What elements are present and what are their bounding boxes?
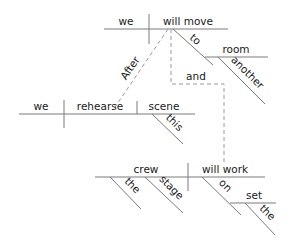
sub-verb: rehearse [77, 100, 123, 112]
preposition-on: on [217, 176, 235, 194]
coordinating-connector-line [171, 29, 224, 162]
prep-object-room: room [222, 43, 249, 55]
subordinate-conjunction-after: After [118, 53, 142, 81]
sub-direct-object: scene [149, 100, 180, 112]
coord-verb: will work [202, 163, 249, 175]
main-subject: we [118, 15, 133, 27]
modifier-another: another [229, 53, 267, 91]
prep-object-set: set [246, 189, 262, 201]
sentence-diagram: we will move to room another After we re… [0, 0, 289, 245]
sub-subject: we [33, 100, 48, 112]
coord-subject: crew [134, 163, 159, 175]
coordinating-conjunction-and: and [186, 70, 206, 82]
main-verb: will move [163, 15, 213, 27]
